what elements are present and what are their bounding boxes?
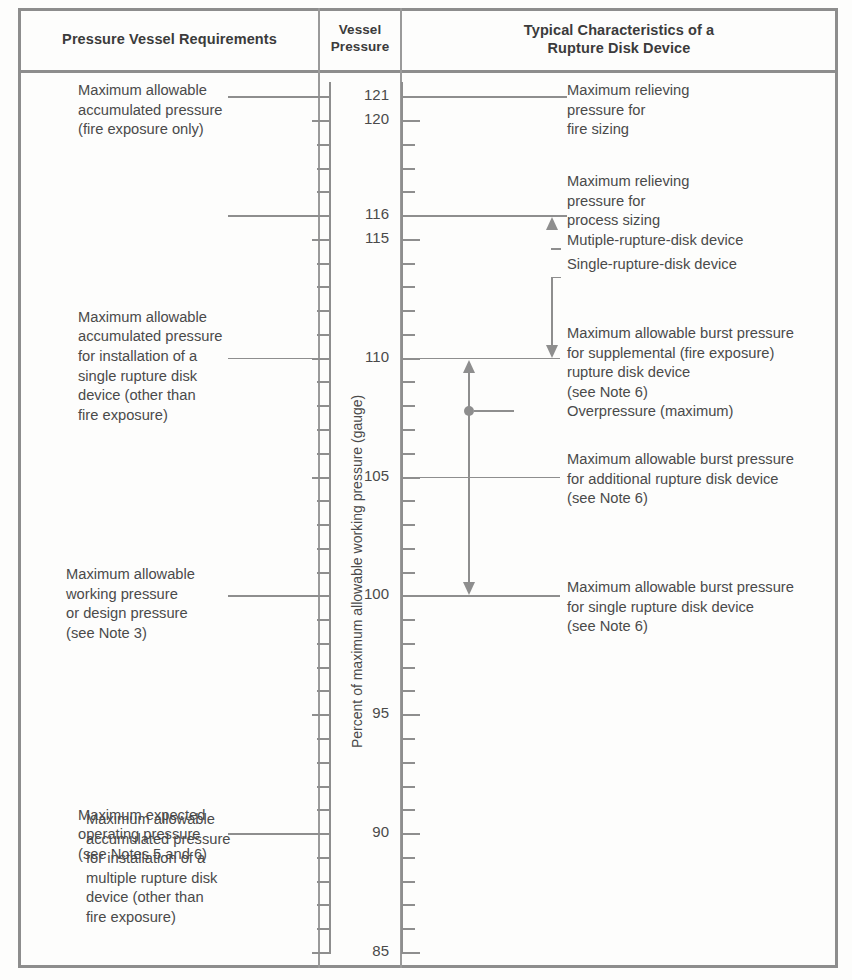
right-label-line: Maximum allowable burst pressure <box>567 578 837 598</box>
axis-tick-left-113 <box>317 286 331 288</box>
right-label-line: Maximum relieving <box>567 81 837 101</box>
overpressure-leader <box>474 410 514 412</box>
left-label-line: working pressure <box>66 585 316 605</box>
figure-canvas: Pressure Vessel Requirements Vessel Pres… <box>0 0 852 980</box>
multiple-disk-arrow-head <box>546 217 558 230</box>
header-divider <box>18 70 838 73</box>
overpressure-marker-dot <box>464 406 474 416</box>
axis-tick-left-115 <box>312 239 331 241</box>
right-label-line: Maximum allowable burst pressure <box>567 324 837 344</box>
header-col-vessel-pressure: Vessel Pressure <box>320 8 400 70</box>
axis-tick-left-105 <box>312 477 331 479</box>
axis-tick-right-90 <box>401 833 420 835</box>
axis-tick-right-97 <box>401 667 415 669</box>
axis-tick-left-97 <box>317 667 331 669</box>
axis-tick-left-103 <box>317 524 331 526</box>
left-label-110: Maximum allowableaccumulated pressurefor… <box>78 308 328 425</box>
supplemental-arrow-head <box>546 345 558 358</box>
axis-tick-right-120 <box>401 120 420 122</box>
axis-tick-right-119 <box>401 144 415 146</box>
left-label-line: fire exposure) <box>86 908 336 928</box>
left-label-line: single rupture disk <box>78 367 328 387</box>
right-label-line: for supplemental (fire exposure) <box>567 344 837 364</box>
right-leader-105 <box>403 477 560 479</box>
axis-tick-right-89 <box>401 857 415 859</box>
axis-tick-right-98 <box>401 643 415 645</box>
axis-value-120: 120 <box>343 110 389 127</box>
left-label-line: multiple rupture disk <box>86 869 336 889</box>
left-label-line: Maximum expected <box>78 806 328 826</box>
right-label-line: Overpressure (maximum) <box>567 402 837 422</box>
left-label-line: accumulated pressure <box>78 101 328 121</box>
left-label-line: (fire exposure only) <box>78 120 328 140</box>
axis-tick-left-98 <box>317 643 331 645</box>
left-label-line: accumulated pressure <box>78 327 328 347</box>
header-col-characteristics: Typical Characteristics of a Rupture Dis… <box>402 8 836 70</box>
axis-tick-right-94 <box>401 738 415 740</box>
axis-rail-right <box>401 82 403 952</box>
right-label-121: Maximum relievingpressure forfire sizing <box>567 81 837 140</box>
right-label-107-8: Overpressure (maximum) <box>567 402 837 422</box>
supplemental-arrow-foot <box>551 277 561 279</box>
axis-value-121: 121 <box>343 86 389 103</box>
axis-tick-left-104 <box>317 500 331 502</box>
right-label-line: for single rupture disk device <box>567 598 837 618</box>
right-label-line: (see Note 6) <box>567 489 837 509</box>
axis-tick-left-117 <box>317 191 331 193</box>
header-col3-line1: Typical Characteristics of a <box>524 22 714 38</box>
left-label-line: (see Notes 5 and 6) <box>78 845 328 865</box>
single-disk-arrow-shaft <box>468 477 470 586</box>
supplemental-arrow-shaft <box>551 277 553 348</box>
axis-tick-left-86 <box>317 928 331 930</box>
axis-tick-left-101 <box>317 572 331 574</box>
axis-value-116: 116 <box>343 205 389 222</box>
axis-value-110: 110 <box>343 348 389 365</box>
axis-tick-right-102 <box>401 548 415 550</box>
header-col2-text: Vessel Pressure <box>331 22 390 56</box>
axis-tick-left-96 <box>317 690 331 692</box>
right-label-105: Maximum allowable burst pressurefor addi… <box>567 450 837 509</box>
axis-tick-right-121 <box>401 96 420 98</box>
right-label-110: Maximum allowable burst pressurefor supp… <box>567 324 837 402</box>
left-label-line: or design pressure <box>66 604 316 624</box>
axis-tick-right-88 <box>401 881 415 883</box>
right-leader-110 <box>403 358 560 360</box>
right-label-100: Maximum allowable burst pressurefor sing… <box>567 578 837 637</box>
axis-tick-left-118 <box>317 168 331 170</box>
right-label-line: pressure for <box>567 101 837 121</box>
axis-tick-right-111 <box>401 334 415 336</box>
left-label-line: Maximum allowable <box>66 565 316 585</box>
right-leader-121 <box>420 96 567 98</box>
multiple-disk-arrow-foot <box>551 248 561 250</box>
axis-tick-right-108 <box>401 405 415 407</box>
axis-value-85: 85 <box>343 942 389 959</box>
axis-tick-right-117 <box>401 191 415 193</box>
left-label-line: Maximum allowable <box>78 308 328 328</box>
axis-tick-left-106 <box>317 453 331 455</box>
axis-tick-right-93 <box>401 762 415 764</box>
axis-tick-right-113 <box>401 286 415 288</box>
right-label-line: (see Note 6) <box>567 617 837 637</box>
right-label-line: rupture disk device <box>567 363 837 383</box>
axis-tick-right-106 <box>401 453 415 455</box>
header-col2-line1: Vessel <box>339 22 382 37</box>
left-label-121: Maximum allowableaccumulated pressure(fi… <box>78 81 328 140</box>
left-label-line: for installation of a <box>78 347 328 367</box>
header-col2-line2: Pressure <box>331 39 390 54</box>
right-label-line: Mutiple-rupture-disk device <box>567 231 837 251</box>
axis-tick-right-118 <box>401 168 415 170</box>
header-col1-text: Pressure Vessel Requirements <box>62 30 277 48</box>
left-label-line: (see Note 3) <box>66 624 316 644</box>
axis-tick-left-116 <box>312 215 331 217</box>
left-label-line: Maximum allowable <box>78 81 328 101</box>
header-col3-line2: Rupture Disk Device <box>548 40 691 56</box>
axis-tick-right-104 <box>401 500 415 502</box>
right-label-114-6: Mutiple-rupture-disk device <box>567 231 837 251</box>
right-leader-116 <box>403 215 567 217</box>
axis-tick-right-92 <box>401 786 415 788</box>
axis-tick-right-87 <box>401 904 415 906</box>
left-label-line: operating pressure <box>78 825 328 845</box>
single-disk-arrow-head <box>463 582 475 595</box>
header-col3-text: Typical Characteristics of a Rupture Dis… <box>524 21 714 57</box>
axis-tick-right-96 <box>401 690 415 692</box>
